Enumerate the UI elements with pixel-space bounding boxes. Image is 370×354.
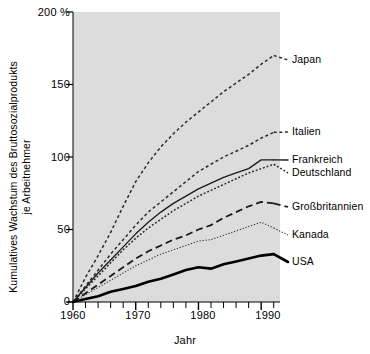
plot-area bbox=[0, 0, 370, 354]
gdp-growth-line-chart: Kumulatives Wachstum des Bruttosozialpro… bbox=[0, 0, 370, 354]
